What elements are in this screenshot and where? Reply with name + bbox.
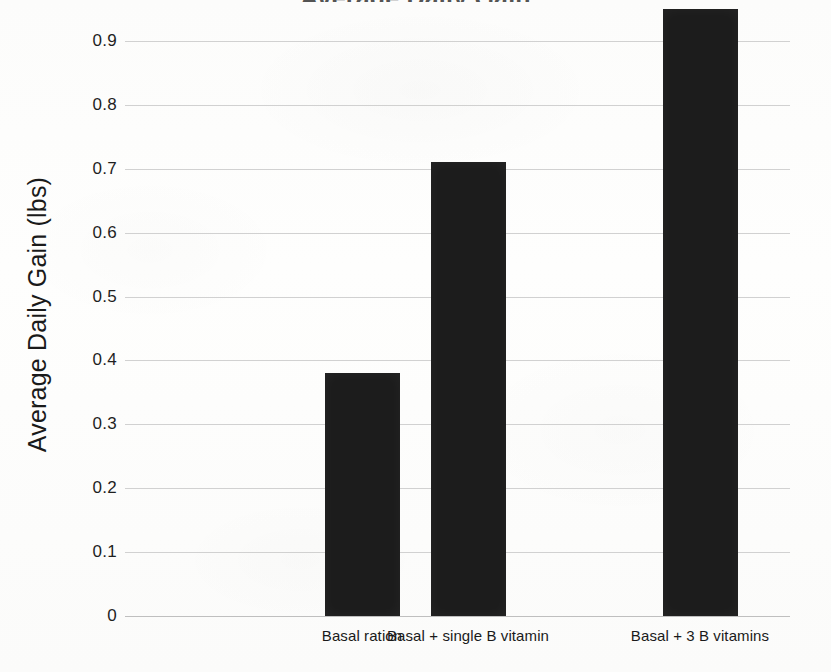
bar (431, 162, 506, 616)
plot-area (125, 0, 790, 616)
y-axis-tick-label: 0 (57, 606, 117, 626)
bar (325, 373, 400, 616)
y-axis-tick-label: 0.1 (57, 542, 117, 562)
y-axis-tick-label: 0.4 (57, 350, 117, 370)
x-axis-tick-label: Basal + 3 B vitamins (631, 627, 769, 644)
y-axis-tick-label: 0.8 (57, 95, 117, 115)
y-axis-tick-label: 0.2 (57, 478, 117, 498)
y-axis-tick-label: 0.5 (57, 287, 117, 307)
y-axis-tick-label: 0.7 (57, 159, 117, 179)
bar (663, 9, 738, 616)
x-axis-tick-label: Basal + single B vitamin (387, 627, 549, 644)
bar-chart: Average Daily Gain Average Daily Gain (l… (0, 0, 831, 672)
y-axis-tick-label: 0.3 (57, 414, 117, 434)
y-axis-tick-labels: 0.90.80.70.60.50.40.30.20.10 (45, 0, 117, 616)
gridline (125, 616, 790, 617)
x-axis-tick-labels: Basal rationBasal + single B vitaminBasa… (125, 627, 790, 657)
y-axis-tick-label: 0.9 (57, 31, 117, 51)
y-axis-tick-label: 0.6 (57, 223, 117, 243)
